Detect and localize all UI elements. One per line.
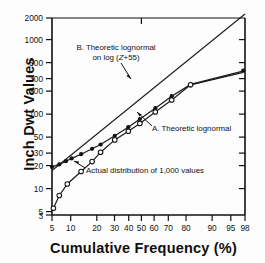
x-axis-ticks	[52, 215, 245, 221]
series-a-theoretic-lognormal	[52, 14, 245, 171]
annotation-series-b-line1: B. Theoretic lognormal	[62, 43, 170, 53]
annotation-arrowheads	[74, 74, 142, 164]
arrowhead-b	[126, 74, 131, 79]
x-tick-label-80: 80	[175, 223, 197, 233]
annotation-b-prefix: on log (	[92, 53, 118, 62]
annotation-series-a: A. Theoretic lognormal	[152, 124, 231, 134]
y-tick-label-3: 3	[17, 211, 43, 221]
x-axis-title: Cumulative Frequency (%)	[36, 240, 251, 256]
annotation-series-b-line2: on log (Z+55)	[62, 53, 170, 63]
y-axis-ticks-right	[239, 40, 245, 189]
x-tick-label-98: 98	[234, 223, 256, 233]
x-tick-label-10: 10	[60, 223, 82, 233]
annotation-actual-distribution: Actual distribution of 1,000 values	[86, 166, 204, 176]
y-axis-ticks	[46, 18, 52, 215]
series-b-theoretic-lognormal-log	[50, 69, 245, 169]
chart-figure: 2000 1000 500 300 200 100 50 30 20 10 5 …	[0, 0, 265, 263]
y-axis-title: Inch Dwt Values	[21, 34, 37, 194]
annotation-series-b: B. Theoretic lognormal on log (Z+55)	[62, 43, 170, 62]
annotation-b-suffix: +55)	[124, 53, 140, 62]
y-tick-label-2000: 2000	[17, 13, 43, 23]
